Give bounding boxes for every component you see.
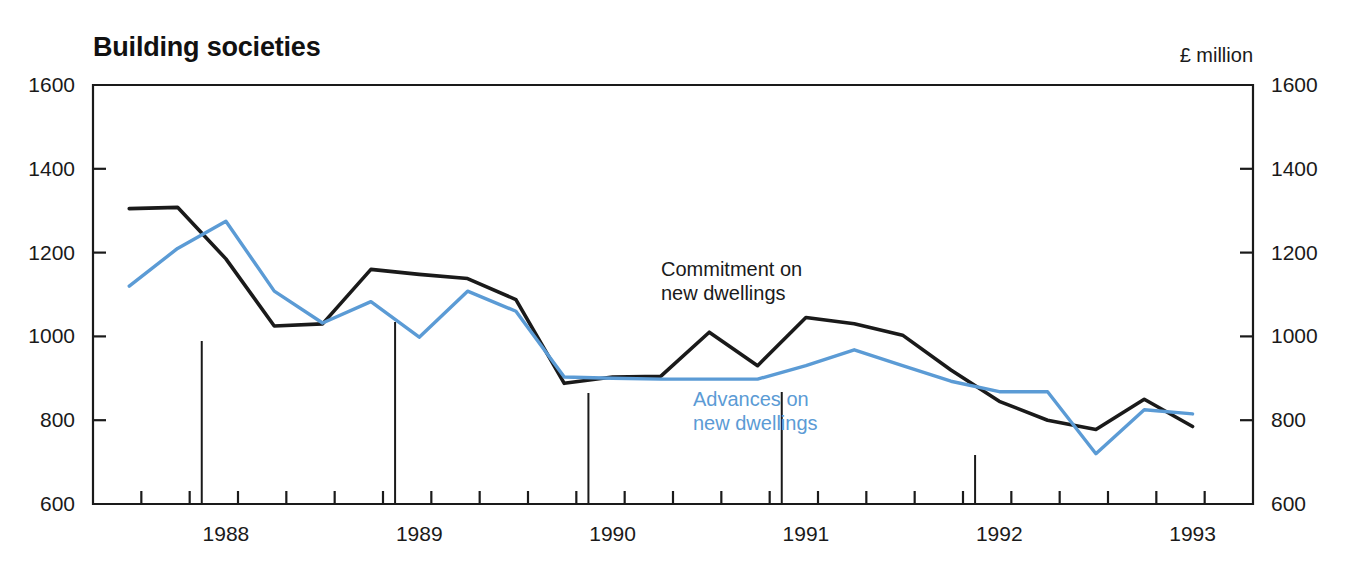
series-lines xyxy=(129,207,1192,453)
annotation-advances-line1: Advances on xyxy=(693,388,818,412)
annotation-commitment-line2: new dwellings xyxy=(661,282,802,306)
annotation-commitment-line1: Commitment on xyxy=(661,258,802,282)
x-axis-year-label: 1991 xyxy=(783,522,830,546)
y-axis-tick-label-right: 1200 xyxy=(1271,241,1318,265)
y-axis-tick-label-right: 600 xyxy=(1271,492,1306,516)
axis-ticks xyxy=(93,169,1253,504)
y-axis-tick-label-left: 600 xyxy=(40,492,75,516)
y-axis-tick-label-right: 1400 xyxy=(1271,157,1318,181)
annotation-advances-line2: new dwellings xyxy=(693,412,818,436)
x-axis-year-label: 1988 xyxy=(203,522,250,546)
y-axis-tick-label-left: 1200 xyxy=(28,241,75,265)
y-axis-tick-label-right: 1600 xyxy=(1271,73,1318,97)
y-axis-tick-label-left: 1000 xyxy=(28,324,75,348)
x-axis-year-label: 1990 xyxy=(589,522,636,546)
chart-page: Building societies £ million 60080010001… xyxy=(0,0,1356,580)
x-axis-year-label: 1992 xyxy=(976,522,1023,546)
y-axis-tick-label-left: 1600 xyxy=(28,73,75,97)
y-axis-tick-label-left: 1400 xyxy=(28,157,75,181)
x-axis-year-label: 1993 xyxy=(1169,522,1216,546)
annotation-advances: Advances on new dwellings xyxy=(693,388,818,435)
year-separators xyxy=(202,322,975,504)
y-axis-tick-label-right: 1000 xyxy=(1271,324,1318,348)
annotation-commitment: Commitment on new dwellings xyxy=(661,258,802,305)
x-axis-year-label: 1989 xyxy=(396,522,443,546)
y-axis-tick-label-right: 800 xyxy=(1271,408,1306,432)
y-axis-tick-label-left: 800 xyxy=(40,408,75,432)
